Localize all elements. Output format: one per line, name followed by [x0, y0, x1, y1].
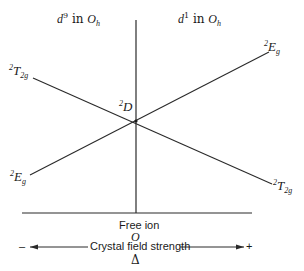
d-electron-count: 1 — [184, 11, 189, 20]
title-d9-oh: d9 in Oh — [57, 13, 100, 25]
t2g-line — [33, 78, 272, 184]
term-bottom-left-eg: 2Eg — [10, 170, 26, 183]
axis-plus-sign: + — [246, 241, 252, 252]
d-electron-count: 9 — [63, 11, 68, 20]
term-symbol: E — [14, 169, 22, 184]
term-subscript: g — [276, 47, 280, 56]
term-symbol: E — [268, 39, 276, 54]
term-subscript: g — [22, 177, 26, 186]
term-top-right-eg: 2Eg — [264, 40, 280, 53]
O-symbol: O — [208, 12, 217, 26]
intersection-point — [134, 119, 137, 122]
h-subscript: h — [96, 19, 100, 28]
term-symbol: D — [123, 99, 132, 114]
delta-symbol: Δ — [131, 254, 140, 266]
O-symbol: O — [87, 12, 96, 26]
term-top-left-t2g: 2T2g — [9, 64, 28, 77]
eg-line — [30, 52, 269, 175]
term-subscript: 2g — [284, 186, 292, 195]
term-center-2d: 2D — [119, 100, 132, 113]
term-subscript: 2g — [20, 71, 28, 80]
left-arrowhead-icon — [30, 245, 38, 250]
term-bottom-right-t2g: 2T2g — [273, 179, 292, 192]
axis-minus-sign: – — [19, 241, 25, 252]
in-word: in — [193, 12, 205, 26]
axis-label: Crystal field strength — [90, 241, 190, 252]
h-subscript: h — [217, 19, 221, 28]
in-word: in — [72, 12, 84, 26]
title-d1-oh: d1 in Oh — [178, 13, 221, 25]
right-arrowhead-icon — [236, 245, 244, 250]
